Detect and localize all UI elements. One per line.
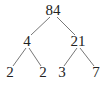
node-21: 21 [71, 33, 86, 49]
node-84: 84 [46, 2, 62, 18]
node-3: 3 [58, 64, 66, 80]
edge-21-3 [64, 48, 77, 66]
node-2-left: 2 [6, 64, 14, 80]
edge-4-2-left [13, 48, 26, 66]
factor-tree-diagram: 84 4 21 2 2 3 7 [0, 0, 106, 98]
nodes: 84 4 21 2 2 3 7 [6, 2, 100, 80]
node-7: 7 [92, 64, 100, 80]
node-2-right: 2 [39, 64, 47, 80]
node-4: 4 [23, 33, 31, 49]
edge-84-4 [31, 17, 50, 35]
